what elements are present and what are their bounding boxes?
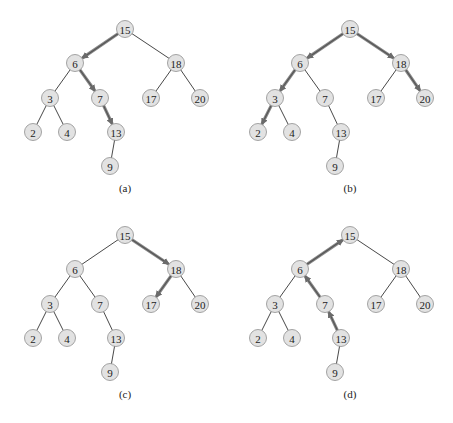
node-label: 20 xyxy=(420,93,432,105)
node-label: 18 xyxy=(396,264,408,276)
node-label: 9 xyxy=(332,161,338,173)
tree-node-13: 13 xyxy=(108,330,125,347)
tree-node-17: 17 xyxy=(368,90,385,107)
tree-node-20: 20 xyxy=(192,296,209,313)
tree-node-17: 17 xyxy=(143,90,160,107)
node-label: 6 xyxy=(297,264,303,276)
tree-node-6: 6 xyxy=(67,261,84,278)
node-label: 7 xyxy=(97,93,103,105)
path-arrow-head xyxy=(80,70,95,90)
tree-node-15: 15 xyxy=(117,21,134,38)
node-label: 2 xyxy=(30,127,36,139)
tree-node-20: 20 xyxy=(417,90,434,107)
node-label: 17 xyxy=(146,299,158,311)
tree-node-6: 6 xyxy=(67,55,84,72)
tree-node-17: 17 xyxy=(143,296,160,313)
node-label: 18 xyxy=(396,58,408,70)
node-label: 7 xyxy=(97,299,103,311)
node-label: 17 xyxy=(371,299,383,311)
tree-node-15: 15 xyxy=(342,21,359,38)
tree-panel-a: 1561837172024139(a) xyxy=(25,21,209,196)
tree-node-9: 9 xyxy=(102,158,119,175)
path-arrow-head xyxy=(307,240,342,264)
node-label: 18 xyxy=(171,264,183,276)
node-label: 4 xyxy=(64,333,70,345)
tree-node-17: 17 xyxy=(368,296,385,313)
node-label: 9 xyxy=(107,367,113,379)
tree-node-9: 9 xyxy=(102,364,119,381)
path-arrow-head xyxy=(329,313,337,331)
tree-node-7: 7 xyxy=(92,90,109,107)
path-arrow-head xyxy=(157,276,172,296)
node-label: 6 xyxy=(72,264,78,276)
node-label: 13 xyxy=(111,127,123,139)
path-arrow-head xyxy=(104,106,112,124)
path-arrow-head xyxy=(406,70,420,90)
node-label: 15 xyxy=(120,230,132,242)
node-label: 3 xyxy=(272,299,278,311)
node-label: 13 xyxy=(336,333,348,345)
tree-node-4: 4 xyxy=(59,330,76,347)
node-label: 4 xyxy=(289,333,295,345)
tree-panel-d: 1561837172024139(d) xyxy=(250,227,434,402)
path-arrow-head xyxy=(132,240,168,264)
bst-figure: 1561837172024139(a)1561837172024139(b)15… xyxy=(0,0,453,423)
tree-node-4: 4 xyxy=(284,124,301,141)
tree-edge xyxy=(350,235,401,269)
tree-node-20: 20 xyxy=(192,90,209,107)
node-label: 15 xyxy=(345,230,357,242)
tree-node-2: 2 xyxy=(25,124,42,141)
tree-node-18: 18 xyxy=(168,55,185,72)
tree-node-6: 6 xyxy=(292,261,309,278)
tree-node-13: 13 xyxy=(108,124,125,141)
path-arrow-head xyxy=(281,70,296,90)
node-label: 17 xyxy=(371,93,383,105)
path-arrow-head xyxy=(306,277,321,297)
node-label: 7 xyxy=(322,93,328,105)
node-label: 9 xyxy=(332,367,338,379)
tree-node-15: 15 xyxy=(342,227,359,244)
panel-caption: (b) xyxy=(344,182,357,195)
node-label: 6 xyxy=(297,58,303,70)
node-label: 17 xyxy=(146,93,158,105)
tree-node-2: 2 xyxy=(250,124,267,141)
panel-caption: (a) xyxy=(119,182,132,195)
node-label: 3 xyxy=(47,93,53,105)
tree-panel-b: 1561837172024139(b) xyxy=(250,21,434,196)
path-arrow-head xyxy=(308,34,343,58)
tree-node-9: 9 xyxy=(327,158,344,175)
tree-node-7: 7 xyxy=(317,296,334,313)
path-arrow-head xyxy=(357,34,393,58)
tree-node-7: 7 xyxy=(92,296,109,313)
tree-node-18: 18 xyxy=(393,55,410,72)
tree-panel-c: 1561837172024139(c) xyxy=(25,227,209,402)
node-label: 20 xyxy=(195,299,207,311)
node-label: 20 xyxy=(420,299,432,311)
node-label: 20 xyxy=(195,93,207,105)
node-label: 6 xyxy=(72,58,78,70)
tree-node-3: 3 xyxy=(267,296,284,313)
tree-node-15: 15 xyxy=(117,227,134,244)
node-label: 15 xyxy=(345,24,357,36)
tree-node-13: 13 xyxy=(333,124,350,141)
tree-node-18: 18 xyxy=(168,261,185,278)
tree-node-3: 3 xyxy=(267,90,284,107)
path-arrow-head xyxy=(83,34,118,58)
node-label: 2 xyxy=(255,333,261,345)
node-label: 13 xyxy=(111,333,123,345)
tree-node-6: 6 xyxy=(292,55,309,72)
tree-node-7: 7 xyxy=(317,90,334,107)
tree-node-4: 4 xyxy=(59,124,76,141)
tree-node-9: 9 xyxy=(327,364,344,381)
node-label: 4 xyxy=(64,127,70,139)
panel-caption: (c) xyxy=(119,388,132,401)
node-label: 2 xyxy=(30,333,36,345)
tree-edge xyxy=(125,29,176,63)
panel-caption: (d) xyxy=(344,388,357,401)
tree-node-20: 20 xyxy=(417,296,434,313)
tree-node-3: 3 xyxy=(42,296,59,313)
node-label: 2 xyxy=(255,127,261,139)
tree-node-13: 13 xyxy=(333,330,350,347)
node-label: 9 xyxy=(107,161,113,173)
node-label: 7 xyxy=(322,299,328,311)
